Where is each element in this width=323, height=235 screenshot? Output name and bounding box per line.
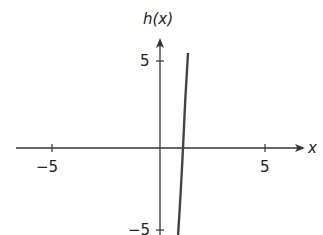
y-tick-label-5: 5	[140, 52, 150, 70]
x-axis-label: x	[307, 139, 317, 157]
y-axis-label: h(x)	[143, 10, 173, 28]
x-tick-label-neg5: −5	[36, 158, 58, 176]
y-tick-label-neg5: −5	[128, 221, 150, 235]
h-curve	[178, 53, 188, 235]
chart: −5 5 5 −5 x h(x)	[0, 0, 323, 235]
x-tick-label-5: 5	[260, 158, 270, 176]
